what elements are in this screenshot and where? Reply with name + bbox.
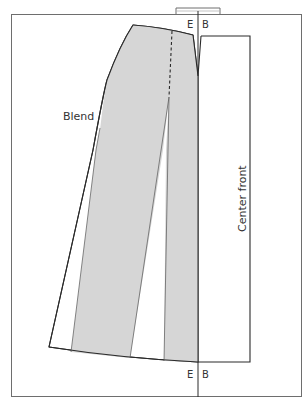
skirt-pattern-diagram: E B E B Blend Center front bbox=[0, 0, 307, 401]
label-top-b: B bbox=[202, 19, 209, 30]
label-top-e: E bbox=[187, 19, 193, 30]
label-blend: Blend bbox=[63, 110, 94, 123]
label-bottom-e: E bbox=[187, 369, 193, 380]
label-center-front: Center front bbox=[236, 165, 249, 232]
label-bottom-b: B bbox=[202, 369, 209, 380]
